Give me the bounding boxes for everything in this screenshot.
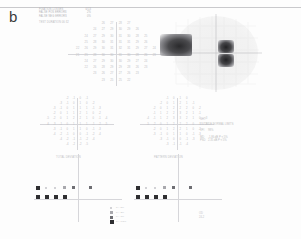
grid-cell: -4 [97, 134, 103, 137]
grid-cell: 1 [171, 103, 177, 106]
threshold-sensitivity-grid: 2627282724272930292624272930313028252528… [68, 22, 164, 86]
grid-cell: 27 [100, 28, 106, 31]
grid-cell: 1 [77, 108, 83, 111]
grid-cell: 1 [164, 108, 170, 111]
grid-cell: -4 [184, 144, 190, 147]
grid-cell: 31 [117, 54, 123, 57]
legend-row: P < 0.5% [110, 220, 150, 225]
grid-cell: 0 [177, 139, 183, 142]
defect-blob-central-upper [218, 40, 234, 53]
grid-cell: 3 [171, 118, 177, 121]
grid-cell: 1 [177, 134, 183, 137]
grid-cell: 2 [171, 129, 177, 132]
grid-cell: 26 [92, 66, 98, 69]
global-indices-block: GHT OUTSIDE NORMAL LIMITS VFI 98% MD -1.… [200, 118, 262, 143]
grid-cell: 2 [177, 103, 183, 106]
grid-cell: -1 [71, 139, 77, 142]
grid-cell: 29 [92, 47, 98, 50]
grid-cell: -2 [58, 134, 64, 137]
grid-cell: 1 [84, 108, 90, 111]
grid-cell: 27 [117, 72, 123, 75]
defect-blob-central-lower [218, 54, 234, 67]
vfi-value: 98% [208, 129, 262, 133]
probability-symbol-p1 [189, 186, 192, 189]
grid-cell: -3 [151, 134, 157, 137]
grid-cell: -4 [58, 139, 64, 142]
probability-symbol-p1 [72, 186, 75, 189]
prob-vertical-axis [78, 154, 79, 222]
grid-cell: 1 [158, 118, 164, 121]
grid-cell: -1 [151, 118, 157, 121]
legend-swatch [110, 207, 112, 209]
grid-cell: -4 [51, 134, 57, 137]
grid-cell: 2 [77, 118, 83, 121]
grid-cell: 2 [177, 108, 183, 111]
ght-label: GHT [200, 118, 262, 122]
grid-cell: 0 [58, 118, 64, 121]
grid-cell: 23 [92, 72, 98, 75]
grid-cell: 0 [64, 108, 70, 111]
grid-cell: 0 [84, 129, 90, 132]
visual-field-report-page: b FIXATION LOSSES0/13FALSE POS ERRORS2%F… [0, 0, 301, 239]
grid-cell: 0 [90, 118, 96, 121]
grid-cell: 23 [134, 72, 140, 75]
grid-cell: -5 [145, 124, 151, 127]
grid-cell: -1 [84, 98, 90, 101]
probability-symbol-p05 [136, 186, 140, 190]
grid-cell: 28 [100, 66, 106, 69]
grid-cell: 1 [64, 118, 70, 121]
grid-cell: -2 [51, 113, 57, 116]
grid-cell: 1 [84, 118, 90, 121]
grid-cell: -4 [103, 118, 109, 121]
grid-cell: 0 [84, 103, 90, 106]
grid-cell: 25 [143, 35, 149, 38]
legend-swatch [110, 220, 114, 224]
footer-pattern: 24-2 [199, 216, 239, 220]
grid-cell: 26 [126, 72, 132, 75]
grid-cell: 31 [126, 41, 132, 44]
probability-symbol-p05 [163, 195, 167, 199]
grid-cell: 30 [126, 54, 132, 57]
grid-cell: -2 [151, 129, 157, 132]
grid-cell: 2 [184, 113, 190, 116]
probability-symbol-legend: P < 5%P < 2%P < 1%P < 0.5% [110, 206, 150, 224]
total-deviation-probability-plot [34, 176, 122, 222]
grid-cell: 0 [190, 124, 196, 127]
grid-cell: -1 [184, 139, 190, 142]
grid-cell: 23 [143, 66, 149, 69]
grid-cell: 1 [158, 113, 164, 116]
grid-cell: 25 [109, 79, 115, 82]
grid-cell: 28 [134, 35, 140, 38]
grid-cell: 30 [109, 54, 115, 57]
defect-blob-superior-nasal [160, 34, 192, 56]
grid-cell: 3 [177, 118, 183, 121]
grid-cell: 28 [134, 54, 140, 57]
grid-cell: -3 [51, 129, 57, 132]
grid-cell: -1 [90, 124, 96, 127]
grid-cell: 1 [71, 129, 77, 132]
grid-cell: 2 [171, 108, 177, 111]
grid-cell: 0 [77, 134, 83, 137]
grid-cell: 27 [134, 60, 140, 63]
grid-cell: 1 [190, 113, 196, 116]
grid-cell: -1 [58, 108, 64, 111]
grid-cell: 0 [190, 129, 196, 132]
grid-cell: 30 [109, 60, 115, 63]
grid-cell: 28 [117, 22, 123, 25]
grid-cell: 30 [117, 60, 123, 63]
grid-cell: 29 [134, 41, 140, 44]
grid-cell: 1 [177, 98, 183, 101]
grid-cell: 26 [143, 54, 149, 57]
grid-cell: 1 [77, 103, 83, 106]
grid-cell: 3 [177, 113, 183, 116]
grid-cell: -5 [84, 144, 90, 147]
grid-cell: -5 [103, 124, 109, 127]
grid-cell: -1 [71, 98, 77, 101]
grid-cell: 23 [151, 54, 157, 57]
grid-cell: 2 [184, 124, 190, 127]
grid-cell: -3 [190, 139, 196, 142]
grid-cell: 24 [143, 60, 149, 63]
grid-cell: -3 [58, 103, 64, 106]
grid-cell: 28 [126, 66, 132, 69]
grid-cell: 2 [184, 118, 190, 121]
